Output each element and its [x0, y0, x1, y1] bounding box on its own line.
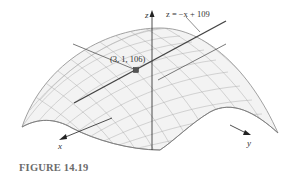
y-axis-label: y [246, 138, 251, 148]
point-label: (3, 1, 106) [110, 54, 146, 64]
figure-caption: FIGURE 14.19 [19, 162, 89, 173]
paraboloid-surface [22, 28, 278, 150]
tangent-point [134, 68, 139, 73]
y-axis [230, 125, 251, 135]
y-axis-arrow-icon [243, 130, 251, 135]
x-axis-label: x [57, 141, 62, 151]
x-axis-arrow-icon [59, 134, 67, 140]
tangent-line-label: z = −x + 109 [166, 9, 210, 19]
z-axis-label: z [144, 10, 149, 20]
z-axis-arrow-icon [150, 10, 155, 17]
label-leader-line [186, 17, 200, 32]
paraboloid-figure: z z = −x + 109 (3, 1, 106) x y [0, 0, 296, 185]
